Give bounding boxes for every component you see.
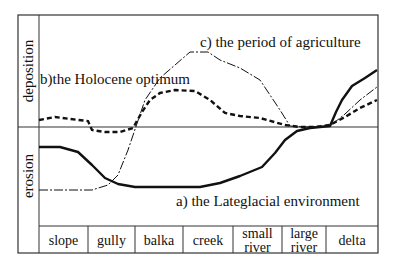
category-balka: balka xyxy=(144,233,175,248)
category-delta: delta xyxy=(338,233,366,248)
category-gully: gully xyxy=(97,233,126,248)
curve-label-a: a) the Lateglacial environment xyxy=(176,193,360,210)
category-small-river-line1: small xyxy=(242,226,272,241)
deposition-axis-label: deposition xyxy=(20,39,36,102)
category-creek: creek xyxy=(193,233,223,248)
curve-lateglacial xyxy=(39,70,377,187)
outer-frame xyxy=(18,15,378,253)
curve-label-c: c) the period of agriculture xyxy=(200,34,361,51)
category-large-river-line1: large xyxy=(290,226,318,241)
category-slope: slope xyxy=(49,233,79,248)
erosion-deposition-diagram: deposition erosion b)the Holocene optimu… xyxy=(0,0,396,266)
category-large-river-line2: river xyxy=(291,240,318,255)
category-small-river-line2: river xyxy=(244,240,271,255)
curve-label-b: b)the Holocene optimum xyxy=(40,71,190,88)
category-labels: slope gully balka creek small river larg… xyxy=(49,226,367,255)
erosion-axis-label: erosion xyxy=(20,153,36,198)
